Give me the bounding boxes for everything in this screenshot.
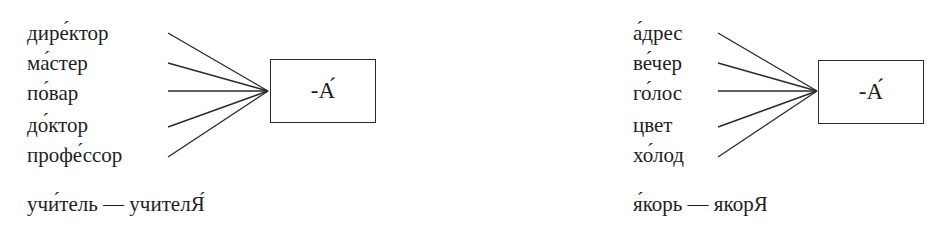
word-item: хо́лод [633, 143, 684, 167]
word-item: до́ктор [27, 113, 88, 137]
word-item: го́лос [633, 81, 682, 105]
example-text: учи́тель — учителЯ́ [27, 192, 205, 217]
ending-box: -А́ [818, 60, 924, 124]
example-text: я́корь — якорЯ [633, 192, 768, 217]
word-item: ма́стер [27, 51, 88, 75]
word-item: дире́ктор [27, 21, 109, 45]
word-item: цвет [633, 113, 673, 137]
word-item: ве́чер [633, 51, 682, 75]
word-item: а́дрес [633, 21, 683, 45]
ending-box: -А́ [270, 59, 376, 123]
word-item: профе́ссор [27, 143, 122, 167]
word-item: по́вар [27, 81, 78, 105]
